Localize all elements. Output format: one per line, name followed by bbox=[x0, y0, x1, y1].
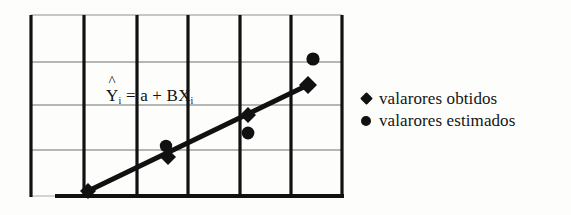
regression-formula-label: ^ Y i = a + BXi bbox=[106, 86, 194, 106]
legend-item-obtidos: valarores obtidos bbox=[358, 88, 568, 110]
hat-accent-icon: ^ bbox=[106, 74, 118, 89]
legend-label-estimados: valarores estimados bbox=[376, 111, 515, 131]
vertical-gridlines bbox=[31, 15, 342, 197]
data-point-circle bbox=[306, 52, 319, 65]
data-point-diamond bbox=[299, 76, 317, 94]
y-hat-symbol: ^ Y bbox=[106, 86, 118, 106]
data-point-circle bbox=[242, 127, 255, 140]
formula-operator: = a + BX bbox=[121, 86, 190, 105]
data-point-circle bbox=[160, 140, 172, 152]
circle-marker-icon bbox=[358, 112, 376, 130]
legend-label-obtidos: valarores obtidos bbox=[376, 89, 497, 109]
legend: valarores obtidos valarores estimados bbox=[358, 88, 568, 132]
diamond-marker-icon bbox=[358, 90, 376, 108]
regression-scatter-figure: ^ Y i = a + BXi valarores obtidos valaro… bbox=[0, 0, 571, 215]
formula-subscript-2: i bbox=[191, 95, 194, 106]
legend-item-estimados: valarores estimados bbox=[358, 110, 568, 132]
